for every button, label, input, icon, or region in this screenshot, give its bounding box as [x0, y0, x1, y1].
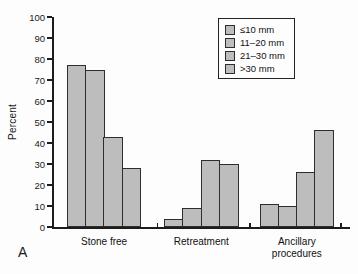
y-axis-tick: [47, 142, 52, 144]
figure-panel: Percent ≤10 mm11–20 mm21–30 mm>30 mm 010…: [0, 0, 358, 274]
bar-21–30 mm-Ancillary procedures: [296, 172, 316, 227]
bar-≤10 mm-Stone free: [67, 65, 87, 227]
x-axis-tick: [249, 223, 251, 229]
x-axis-tick: [340, 223, 342, 229]
y-axis-tick-label: 80: [21, 54, 45, 65]
category-label: Ancillary procedures: [259, 236, 335, 259]
bar->30 mm-Retreatment: [219, 164, 239, 227]
legend-row: 21–30 mm: [225, 50, 288, 61]
legend-swatch-icon: [225, 38, 235, 48]
category-label: Stone free: [66, 236, 142, 248]
y-axis-tick-label: 90: [21, 33, 45, 44]
legend-swatch-icon: [225, 25, 235, 35]
legend-label: >30 mm: [240, 63, 275, 74]
legend: ≤10 mm11–20 mm21–30 mm>30 mm: [218, 18, 295, 79]
legend-row: >30 mm: [225, 63, 288, 74]
legend-swatch-icon: [225, 64, 235, 74]
y-axis-tick: [47, 100, 52, 102]
y-axis-tick-label: 70: [21, 75, 45, 86]
y-axis-tick-label: 100: [21, 12, 45, 23]
y-axis-tick: [47, 184, 52, 186]
y-axis-tick: [47, 58, 52, 60]
y-axis-tick: [47, 79, 52, 81]
bar-11–20 mm-Ancillary procedures: [278, 206, 298, 227]
y-axis-tick-label: 40: [21, 138, 45, 149]
x-axis-line: [52, 227, 350, 229]
y-axis-tick: [47, 205, 52, 207]
y-axis-tick-label: 50: [21, 117, 45, 128]
legend-row: 11–20 mm: [225, 37, 288, 48]
y-axis-title: Percent: [7, 104, 18, 140]
y-axis-tick: [47, 37, 52, 39]
bar-chart: Percent ≤10 mm11–20 mm21–30 mm>30 mm 010…: [0, 0, 358, 274]
bar-11–20 mm-Stone free: [85, 70, 105, 228]
y-axis-tick: [47, 16, 52, 18]
y-axis-line: [52, 17, 54, 229]
bar-≤10 mm-Retreatment: [164, 219, 184, 227]
x-axis-tick: [157, 223, 159, 229]
y-axis-tick: [47, 226, 52, 228]
y-axis-tick-label: 10: [21, 201, 45, 212]
legend-label: 21–30 mm: [240, 50, 285, 61]
bar->30 mm-Stone free: [122, 168, 142, 227]
category-label: Retreatment: [163, 236, 239, 248]
panel-label: A: [18, 244, 27, 260]
legend-label: 11–20 mm: [240, 37, 284, 48]
legend-label: ≤10 mm: [240, 24, 274, 35]
y-axis-tick: [47, 121, 52, 123]
y-axis-tick-label: 30: [21, 159, 45, 170]
bar-21–30 mm-Retreatment: [201, 160, 221, 227]
bar-11–20 mm-Retreatment: [182, 208, 202, 227]
legend-swatch-icon: [225, 51, 235, 61]
legend-row: ≤10 mm: [225, 24, 288, 35]
bar->30 mm-Ancillary procedures: [314, 130, 334, 227]
y-axis-tick-label: 0: [21, 222, 45, 233]
bar-≤10 mm-Ancillary procedures: [260, 204, 280, 227]
y-axis-tick-label: 20: [21, 180, 45, 191]
y-axis-tick-label: 60: [21, 96, 45, 107]
bar-21–30 mm-Stone free: [103, 137, 123, 227]
y-axis-tick: [47, 163, 52, 165]
